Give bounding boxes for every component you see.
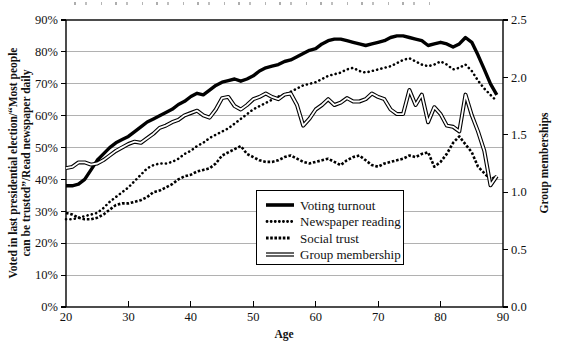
series-line-group-membership-inner (66, 90, 497, 185)
y-left-tick-label: 80% (35, 45, 58, 59)
tick-label-layer: 0%10%20%30%40%50%60%70%80%90%0.00.51.01.… (35, 13, 527, 324)
legend-label-newspaper-reading: Newspaper reading (300, 214, 401, 229)
y-left-tick-label: 0% (41, 300, 58, 314)
y-left-tick-label: 10% (35, 268, 58, 282)
y-right-axis-title: Group memberships (538, 112, 551, 214)
x-tick-label: 70 (372, 310, 385, 324)
y-left-tick-label: 70% (35, 77, 58, 91)
x-tick-label: 50 (247, 310, 260, 324)
y-right-tick-label: 2.5 (511, 13, 527, 27)
y-left-axis-title-line2: can be trusted”/Read newspaper daily (20, 69, 33, 256)
y-left-tick-label: 40% (35, 173, 58, 187)
y-right-tick-label: 0.5 (511, 243, 527, 257)
x-tick-label: 40 (185, 310, 198, 324)
figure-canvas: 0%10%20%30%40%50%60%70%80%90%0.00.51.01.… (0, 0, 563, 344)
x-tick-label: 80 (434, 310, 447, 324)
legend-label-group-membership: Group membership (300, 247, 401, 262)
y-right-tick-label: 1.0 (511, 185, 527, 199)
chart: 0%10%20%30%40%50%60%70%80%90%0.00.51.01.… (0, 0, 563, 344)
legend: Voting turnout Newspaper reading Social … (257, 191, 404, 265)
y-right-tick-label: 2.0 (511, 71, 527, 85)
y-right-tick-label: 0.0 (511, 300, 527, 314)
y-left-tick-label: 30% (35, 205, 58, 219)
legend-label-social-trust: Social trust (300, 231, 359, 246)
legend-label-voting-turnout: Voting turnout (300, 198, 376, 213)
y-left-tick-label: 20% (35, 236, 58, 250)
y-left-axis-title-line1: Voted in last presidential election/“Mos… (7, 48, 20, 279)
x-tick-label: 90 (497, 310, 510, 324)
y-left-tick-label: 60% (35, 109, 58, 123)
y-left-tick-label: 50% (35, 141, 58, 155)
x-tick-label: 60 (309, 310, 322, 324)
y-left-tick-label: 90% (35, 13, 58, 27)
y-right-tick-label: 1.5 (511, 128, 527, 142)
x-axis-title: Age (274, 328, 293, 341)
series-line-group-membership (66, 90, 497, 185)
x-tick-label: 20 (60, 310, 73, 324)
x-tick-label: 30 (122, 310, 135, 324)
cropped-caption-fragment (74, 2, 430, 5)
